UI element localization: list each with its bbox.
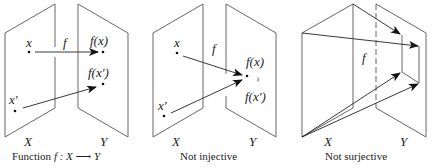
point-fx-prime [102,83,105,86]
label-x-prime: x′ [8,92,18,107]
set-label-y: Y [400,134,409,149]
panel-function: x f f(x) f(x′) x′ X Y [5,4,128,149]
caption-prefix: Function [12,150,54,162]
arrow-bottom-to-image-bottom-left [302,73,400,137]
domain-plane-x [153,4,203,137]
image-region [402,35,419,83]
caption-math: f : X ⟶ Y [54,150,100,162]
label-x-prime: x′ [157,98,167,113]
arrow-x-to-image [183,56,242,75]
point-fx [102,51,105,54]
label-f: f [63,35,69,50]
label-fx-prime: f(x′) [88,65,109,80]
equals-sign: = [253,77,263,82]
panel-not-surjective: f X Y [302,4,426,149]
domain-plane-x [5,4,55,137]
point-fx-equals-fxprime [246,75,249,78]
arrow-xprime-to-image [171,80,242,113]
label-fx: f(x) [90,33,108,48]
point-x [176,52,179,55]
set-label-y: Y [249,134,258,149]
label-f: f [212,41,218,56]
label-fx: f(x) [246,54,264,69]
arrow-xprime-to-fxprime [23,87,96,108]
arrow-top-to-image-top-right [302,33,418,46]
caption-not-injective: Not injective [180,150,237,162]
set-label-x: X [323,134,333,149]
label-f: f [362,50,368,65]
panel-not-injective: x f f(x) = f(x′) x′ X Y [153,4,276,149]
set-label-x: X [23,134,33,149]
set-label-y: Y [100,134,109,149]
point-x [28,51,31,54]
set-label-x: X [171,134,181,149]
label-fx-prime: f(x′) [245,89,266,104]
label-x: x [173,35,180,50]
point-x-prime [163,115,166,118]
arrow-bottom-to-image-bottom-right [302,84,418,137]
caption-not-surjective: Not surjective [325,150,387,162]
point-x-prime [14,110,17,113]
arrow-top-to-image-top-left [353,4,400,34]
caption-function: Function f : X ⟶ Y [12,150,100,163]
label-x: x [25,35,32,50]
codomain-plane-y [226,4,276,137]
function-diagrams: x f f(x) f(x′) x′ X Y x f f(x) = f(x′) x… [0,0,432,168]
